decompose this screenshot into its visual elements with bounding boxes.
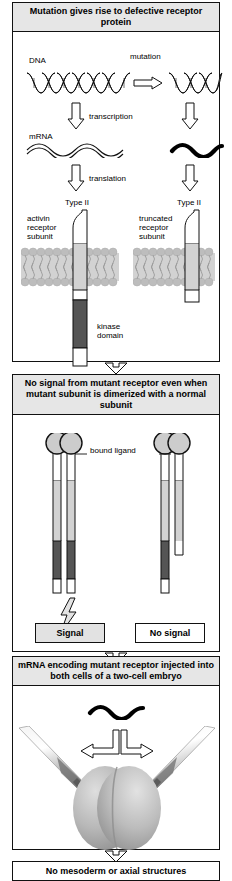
panel-result: No mesoderm or axial structures: [12, 861, 220, 881]
label-mutation: mutation: [130, 52, 161, 61]
label-dna: DNA: [29, 56, 46, 65]
panel-no-signal: No signal from mutant receptor even when…: [12, 374, 220, 652]
dna-helix-icon: [25, 70, 135, 100]
two-cell-embryo-icon: [71, 764, 163, 856]
label-truncated-receptor-subunit: truncated receptor subunit: [139, 214, 172, 241]
mrna-squiggle-mutant-icon: [169, 142, 225, 162]
label-bound-ligand: bound ligand: [89, 446, 137, 455]
panel-mutation: Mutation gives rise to defective recepto…: [12, 2, 220, 362]
truncated-receptor-icon: [179, 208, 205, 322]
right-arrow-icon: [133, 76, 163, 94]
label-activin-receptor-subunit: activin receptor subunit: [27, 214, 56, 241]
panel-no-signal-header: No signal from mutant receptor even when…: [13, 375, 219, 415]
panel-no-signal-body: bound ligand Signal No signal: [13, 415, 219, 663]
panel-injection-header: mRNA encoding mutant receptor injected i…: [13, 657, 219, 686]
panel-result-header: No mesoderm or axial structures: [13, 862, 219, 880]
label-type-ii-right: Type II: [165, 198, 213, 207]
dna-helix-mutant-icon: [167, 70, 223, 100]
transcription-arrow-right-icon: [181, 102, 199, 134]
label-mrna: mRNA: [29, 132, 53, 141]
figure-root: Mutation gives rise to defective recepto…: [0, 0, 232, 881]
label-type-ii-left: Type II: [53, 198, 101, 207]
label-transcription: transcription: [89, 112, 133, 121]
panel-injection: mRNA encoding mutant receptor injected i…: [12, 656, 220, 850]
mrna-squiggle-icon: [25, 142, 127, 162]
translation-arrow-icon: [67, 164, 85, 196]
no-signal-label: No signal: [150, 628, 191, 638]
activin-receptor-icon: [67, 208, 93, 372]
label-translation: translation: [89, 174, 126, 183]
panel-mutation-body: DNA mutation: [13, 32, 219, 362]
translation-arrow-right-icon: [181, 164, 199, 196]
signal-box: Signal: [35, 623, 105, 643]
signal-label: Signal: [56, 628, 83, 638]
panel-mutation-header: Mutation gives rise to defective recepto…: [13, 3, 219, 32]
transcription-arrow-icon: [67, 102, 85, 134]
mrna-squiggle-injected-icon: [87, 704, 147, 724]
label-kinase-domain: kinase domain: [97, 322, 123, 340]
panel-injection-body: [13, 686, 219, 850]
no-signal-box: No signal: [135, 623, 205, 643]
